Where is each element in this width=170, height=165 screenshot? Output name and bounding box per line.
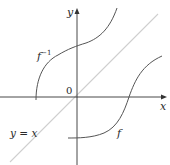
origin-label: 0 [66, 85, 72, 96]
identity-line [10, 14, 158, 162]
function-inverse-diagram: y x 0 f−1 f y = x [0, 0, 170, 165]
f-label: f [116, 127, 123, 140]
y-axis-arrow-icon [75, 8, 80, 14]
x-axis-label: x [160, 100, 167, 113]
x-axis-arrow-icon [161, 95, 167, 100]
y-axis-label: y [66, 6, 74, 19]
f-inverse-superscript: −1 [41, 49, 51, 57]
identity-label: y = x [9, 127, 37, 139]
